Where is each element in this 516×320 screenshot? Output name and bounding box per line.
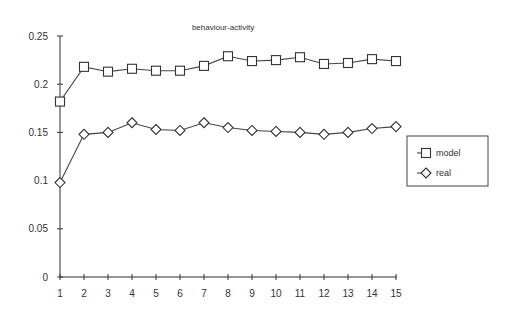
y-tick-label: 0.1	[34, 175, 48, 186]
x-tick-label: 13	[342, 288, 354, 299]
x-tick-label: 12	[318, 288, 330, 299]
chart-title: behaviour-activity	[192, 23, 254, 32]
legend-marker-model	[422, 149, 431, 158]
series-model	[56, 52, 401, 106]
x-tick-label: 11	[295, 288, 306, 299]
x-axis: 123456789101112131415	[57, 274, 402, 299]
data-point-model	[152, 66, 161, 75]
data-point-model	[344, 58, 353, 67]
legend-label: model	[436, 148, 461, 158]
legend-label: real	[436, 168, 451, 178]
x-tick-label: 8	[225, 288, 231, 299]
data-point-real	[367, 124, 377, 134]
data-point-model	[104, 67, 113, 76]
data-point-real	[391, 122, 401, 132]
x-tick-label: 1	[57, 288, 63, 299]
data-point-model	[296, 53, 305, 62]
data-point-model	[248, 57, 257, 66]
x-tick-label: 9	[249, 288, 255, 299]
data-point-real	[223, 123, 233, 133]
data-point-real	[151, 125, 161, 135]
data-point-real	[271, 126, 281, 136]
data-point-real	[175, 125, 185, 135]
data-point-real	[199, 118, 209, 128]
data-point-real	[295, 127, 305, 137]
x-tick-label: 10	[270, 288, 282, 299]
data-point-model	[176, 66, 185, 75]
series-real	[55, 118, 401, 188]
x-tick-label: 14	[366, 288, 378, 299]
series-layer	[55, 52, 401, 188]
data-point-model	[392, 57, 401, 66]
x-tick-label: 6	[177, 288, 183, 299]
data-point-real	[127, 118, 137, 128]
y-tick-label: 0.15	[29, 127, 49, 138]
x-tick-label: 4	[129, 288, 135, 299]
data-point-model	[368, 55, 377, 64]
data-point-model	[56, 97, 65, 106]
data-point-real	[79, 129, 89, 139]
data-point-model	[200, 61, 209, 70]
y-tick-label: 0.05	[29, 223, 49, 234]
data-point-real	[247, 125, 257, 135]
line-chart: behaviour-activity 00.050.10.150.20.25 1…	[0, 0, 516, 320]
x-tick-label: 15	[390, 288, 402, 299]
data-point-model	[272, 56, 281, 65]
y-axis: 00.050.10.150.20.25	[29, 31, 63, 283]
x-tick-label: 3	[105, 288, 111, 299]
x-tick-label: 7	[201, 288, 207, 299]
x-tick-label: 5	[153, 288, 159, 299]
y-tick-label: 0	[42, 272, 48, 283]
y-tick-label: 0.25	[29, 31, 49, 42]
data-point-real	[55, 178, 65, 188]
data-point-real	[103, 127, 113, 137]
data-point-real	[319, 129, 329, 139]
legend-box	[407, 136, 488, 186]
y-tick-label: 0.2	[34, 79, 48, 90]
data-point-model	[128, 64, 137, 73]
legend-item-model: model	[417, 148, 461, 158]
x-tick-label: 2	[81, 288, 87, 299]
data-point-real	[343, 127, 353, 137]
data-point-model	[320, 59, 329, 68]
legend: modelreal	[407, 136, 488, 186]
data-point-model	[224, 52, 233, 61]
data-point-model	[80, 62, 89, 71]
